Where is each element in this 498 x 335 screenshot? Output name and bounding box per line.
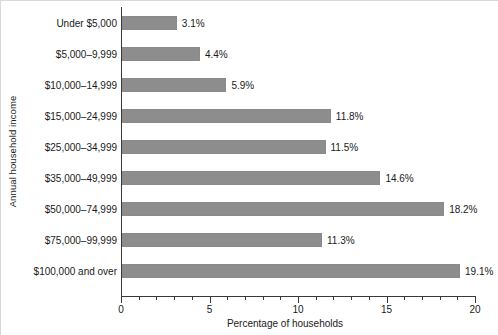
x-axis-minor-tick xyxy=(422,296,423,300)
category-label: $100,000 and over xyxy=(34,265,117,276)
bar-value-label: 11.5% xyxy=(331,141,359,152)
x-axis-minor-tick xyxy=(156,296,157,300)
x-axis-minor-tick xyxy=(369,296,370,300)
x-axis-major-tick xyxy=(298,296,299,303)
x-axis-minor-tick xyxy=(457,296,458,300)
x-axis-minor-tick xyxy=(351,296,352,300)
x-axis-tick-label: 0 xyxy=(118,304,124,315)
category-label: Under $5,000 xyxy=(56,17,117,28)
bar-value-label: 5.9% xyxy=(231,79,254,90)
bar-value-label: 14.6% xyxy=(385,172,413,183)
bar-row: $75,000–99,99911.3% xyxy=(1,224,498,255)
bar-value-label: 3.1% xyxy=(182,17,205,28)
x-axis-title: Percentage of households xyxy=(1,318,498,329)
category-label: $10,000–14,999 xyxy=(45,79,117,90)
x-axis-minor-tick xyxy=(192,296,193,300)
category-label: $50,000–74,999 xyxy=(45,203,117,214)
bar xyxy=(122,264,460,278)
bar-value-label: 18.2% xyxy=(449,203,477,214)
bar-chart-figure: Annual household income Under $5,0003.1%… xyxy=(0,0,498,335)
category-label: $25,000–34,999 xyxy=(45,141,117,152)
x-axis-minor-tick xyxy=(263,296,264,300)
bar xyxy=(122,78,226,92)
x-axis-tick-label: 5 xyxy=(207,304,213,315)
category-label: $35,000–49,999 xyxy=(45,172,117,183)
x-axis-minor-tick xyxy=(227,296,228,300)
x-axis-tick-label: 10 xyxy=(292,304,303,315)
x-axis-minor-tick xyxy=(333,296,334,300)
bar-row: $15,000–24,99911.8% xyxy=(1,100,498,131)
x-axis-minor-tick xyxy=(440,296,441,300)
bar-row: $35,000–49,99914.6% xyxy=(1,162,498,193)
x-axis-minor-tick xyxy=(245,296,246,300)
x-axis-minor-tick xyxy=(139,296,140,300)
x-axis-major-tick xyxy=(210,296,211,303)
bar xyxy=(122,233,322,247)
bar-value-label: 19.1% xyxy=(465,265,493,276)
bar-row: $10,000–14,9995.9% xyxy=(1,69,498,100)
x-axis-minor-tick xyxy=(316,296,317,300)
bar-row: $5,000–9,9994.4% xyxy=(1,38,498,69)
bar-value-label: 4.4% xyxy=(205,48,228,59)
bar-row: $25,000–34,99911.5% xyxy=(1,131,498,162)
bar xyxy=(122,109,331,123)
x-axis-minor-tick xyxy=(404,296,405,300)
bar xyxy=(122,47,200,61)
bar-row: Under $5,0003.1% xyxy=(1,7,498,38)
plot-area: Under $5,0003.1%$5,000–9,9994.4%$10,000–… xyxy=(1,1,498,301)
x-axis-tick-label: 15 xyxy=(381,304,392,315)
x-axis-major-tick xyxy=(475,296,476,303)
category-label: $75,000–99,999 xyxy=(45,234,117,245)
bar-value-label: 11.8% xyxy=(336,110,364,121)
bar-row: $100,000 and over19.1% xyxy=(1,255,498,286)
x-axis-minor-tick xyxy=(174,296,175,300)
bar-row: $50,000–74,99918.2% xyxy=(1,193,498,224)
x-axis-major-tick xyxy=(121,296,122,303)
bar xyxy=(122,202,444,216)
category-label: $15,000–24,999 xyxy=(45,110,117,121)
x-axis-major-tick xyxy=(387,296,388,303)
x-axis-title-text: Percentage of households xyxy=(227,318,343,329)
bar xyxy=(122,140,326,154)
bar-value-label: 11.3% xyxy=(327,234,355,245)
bar xyxy=(122,16,177,30)
bar xyxy=(122,171,380,185)
x-axis-minor-tick xyxy=(280,296,281,300)
category-label: $5,000–9,999 xyxy=(56,48,117,59)
x-axis-tick-label: 20 xyxy=(469,304,480,315)
